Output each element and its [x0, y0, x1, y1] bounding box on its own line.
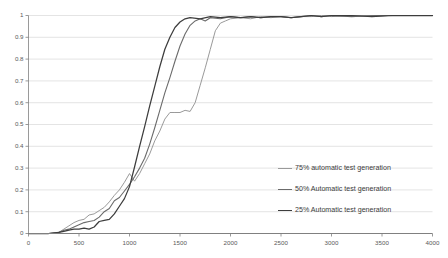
legend-line-swatch-75: [278, 168, 292, 169]
legend-item-75[interactable]: 75% automatic test generation: [278, 158, 444, 179]
y-tick-label: 0.4: [0, 143, 24, 149]
legend-label-25: 25% Automatic test generation: [295, 207, 391, 214]
x-tick-label: 2000: [216, 240, 246, 246]
x-tick-label: 1500: [165, 240, 195, 246]
y-tick-label: 0: [0, 230, 24, 236]
legend-label-50: 50% Automatic test generation: [295, 186, 391, 193]
y-tick-label: 1: [0, 12, 24, 18]
y-tick-label: 0.8: [0, 56, 24, 62]
legend-line-swatch-25: [278, 210, 292, 211]
legend-label-75: 75% automatic test generation: [295, 165, 391, 172]
y-tick-label: 0.6: [0, 100, 24, 106]
legend-item-25[interactable]: 25% Automatic test generation: [278, 200, 444, 221]
y-tick-label: 0.3: [0, 165, 24, 171]
x-tick-label: 3500: [367, 240, 397, 246]
x-tick-label: 2500: [266, 240, 296, 246]
line-chart: 00.10.20.30.40.50.60.70.80.91 0500100015…: [0, 0, 448, 258]
y-tick-label: 0.9: [0, 34, 24, 40]
y-tick-label: 0.2: [0, 187, 24, 193]
x-tick-label: 4000: [418, 240, 448, 246]
x-tick-label: 0: [14, 240, 44, 246]
y-axis-tick-marks: [26, 16, 29, 234]
y-tick-label: 0.5: [0, 121, 24, 127]
y-tick-label: 0.1: [0, 209, 24, 215]
x-tick-label: 1000: [115, 240, 145, 246]
y-tick-label: 0.7: [0, 78, 24, 84]
x-tick-label: 3000: [317, 240, 347, 246]
legend-line-swatch-50: [278, 189, 292, 190]
x-tick-label: 500: [64, 240, 94, 246]
legend-item-50[interactable]: 50% Automatic test generation: [278, 179, 444, 200]
chart-legend: 75% automatic test generation 50% Automa…: [278, 158, 444, 221]
